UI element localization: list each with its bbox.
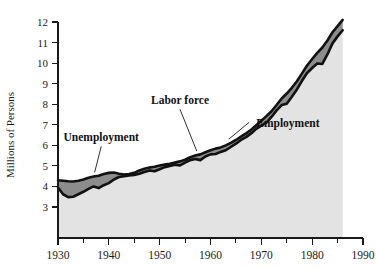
annotation-label: Labor force — [151, 94, 209, 106]
chart-canvas: 3456789101112193019401950196019701980199… — [0, 0, 376, 270]
y-tick-label: 11 — [37, 37, 48, 49]
y-axis-title: Millions of Persons — [4, 92, 16, 178]
x-tick-label: 1990 — [352, 249, 375, 261]
x-tick-label: 1980 — [301, 249, 324, 261]
y-tick-label: 8 — [43, 98, 49, 110]
y-tick-label: 3 — [43, 201, 49, 213]
y-tick-label: 10 — [37, 57, 49, 69]
y-tick-label: 9 — [43, 78, 49, 90]
x-tick-label: 1960 — [199, 249, 222, 261]
annotation-label: Employment — [256, 117, 319, 130]
y-tick-label: 6 — [43, 139, 49, 151]
unemployment-labor-force-chart: 3456789101112193019401950196019701980199… — [0, 0, 376, 270]
annotation-label: Unemployment — [64, 131, 140, 144]
y-tick-label: 7 — [43, 119, 49, 131]
x-tick-label: 1940 — [97, 249, 120, 261]
x-tick-label: 1950 — [148, 249, 171, 261]
x-tick-label: 1970 — [250, 249, 273, 261]
x-tick-label: 1930 — [47, 249, 70, 261]
y-tick-label: 5 — [43, 160, 49, 172]
y-tick-label: 4 — [43, 180, 49, 192]
y-tick-label: 12 — [37, 16, 48, 28]
